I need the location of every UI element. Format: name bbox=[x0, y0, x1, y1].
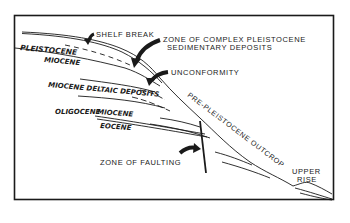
label-miocene-upper: MIOCENE bbox=[44, 56, 81, 67]
label-unconformity: UNCONFORMITY bbox=[171, 68, 239, 77]
faulting-arrowhead-icon bbox=[193, 143, 201, 153]
label-upper-rise-line2: RISE bbox=[297, 175, 317, 184]
label-zone-of-faulting: ZONE OF FAULTING bbox=[100, 158, 181, 167]
label-shelf-break: SHELF BREAK bbox=[96, 30, 154, 39]
unconformity-arrowhead-icon bbox=[146, 78, 156, 86]
label-pleistocene: PLEISTOCENE bbox=[20, 43, 79, 57]
complex-zone-arrow-icon bbox=[137, 40, 160, 60]
fault-line bbox=[200, 121, 206, 173]
shelf-break-arrowhead-icon bbox=[84, 38, 92, 45]
label-miocene-deltaic: MIOCENE DELTAIC DEPOSITS bbox=[48, 81, 160, 99]
label-eocene: EOCENE bbox=[100, 122, 132, 132]
label-oligocene: OLIGOCENE bbox=[55, 108, 100, 116]
label-complex-zone-line2: SEDIMENTARY DEPOSITS bbox=[167, 43, 272, 52]
geologic-cross-section-diagram: SHELF BREAK ZONE OF COMPLEX PLEISTOCENE … bbox=[0, 0, 350, 223]
